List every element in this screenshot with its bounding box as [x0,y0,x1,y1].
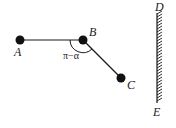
label-c: C [127,78,136,92]
mass-c [117,74,126,83]
physics-diagram: A B C π−α D E [0,0,176,128]
mass-a [16,36,25,45]
angle-label: π−α [63,50,80,61]
rod-bc [83,40,121,78]
label-e: E [152,105,161,119]
mass-b [79,36,88,45]
label-d: D [154,0,164,14]
label-b: B [89,25,97,39]
wall-hatching [157,11,162,101]
label-a: A [13,45,22,59]
